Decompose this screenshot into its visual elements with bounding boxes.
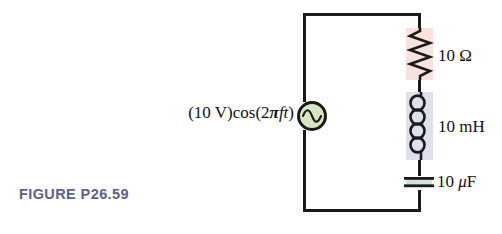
resistor-icon[interactable] [404, 28, 436, 80]
source-arg-close: ) [288, 103, 294, 122]
source-arg-open: (2 [255, 103, 269, 122]
wire-right-bottom [418, 190, 421, 212]
source-cos: cos [233, 103, 256, 122]
resistor-value-label: 10 Ω [438, 46, 472, 66]
capacitor-value-label: 10 μF [437, 172, 476, 192]
wire-top [303, 13, 421, 16]
capacitor-unit-mu: μ [458, 172, 467, 191]
capacitor-icon[interactable] [400, 172, 438, 192]
source-voltage-label: (10 V)cos(2πft) [154, 103, 294, 123]
figure-caption: FIGURE P26.59 [19, 186, 129, 202]
inductor-value-label: 10 mH [438, 117, 485, 137]
source-arg-ft: ft [279, 103, 288, 122]
ac-voltage-source-symbol[interactable] [297, 101, 327, 131]
inductor-icon[interactable] [404, 92, 436, 160]
capacitor-value-number: 10 [437, 172, 458, 191]
source-amplitude: (10 V) [188, 103, 233, 122]
capacitor-unit-farad: F [467, 172, 476, 191]
figure-container: (10 V)cos(2πft) 10 Ω 10 mH 10 μF FIGURE … [0, 0, 502, 234]
source-arg-pi: π [270, 103, 279, 122]
wire-bottom [303, 209, 421, 212]
